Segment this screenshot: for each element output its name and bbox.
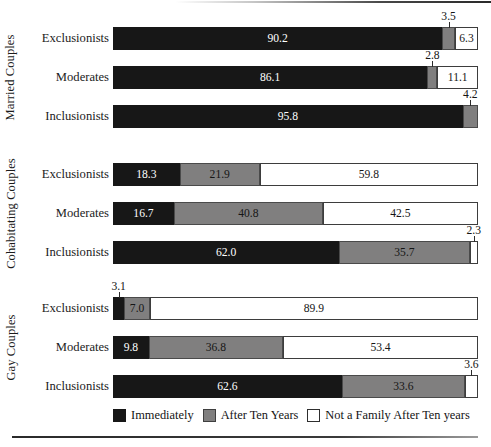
segment-value-label: 36.8 — [206, 342, 226, 354]
bar-row: 90.26.3 — [113, 27, 478, 50]
callout-leader-line — [474, 236, 475, 242]
category-label-inclusionists: Inclusionists — [9, 109, 109, 124]
bar-segment-gray: 7.0 — [124, 297, 150, 320]
category-label-moderates: Moderates — [9, 206, 109, 221]
segment-value-label: 59.8 — [359, 169, 379, 181]
bar-segment-gray: 21.9 — [180, 163, 260, 186]
bar-segment-gray: 40.8 — [174, 202, 323, 225]
legend-swatch-white — [307, 409, 320, 422]
bar-segment-black: 62.6 — [113, 375, 342, 398]
segment-value-label: 42.5 — [390, 208, 410, 220]
category-label-exclusionists: Exclusionists — [9, 167, 109, 182]
segment-value-label: 11.1 — [448, 72, 468, 84]
bar-segment-gray — [427, 66, 437, 89]
bar-row: 9.836.853.4 — [113, 336, 478, 359]
stacked-bar-chart-figure: Married CouplesExclusionists90.26.33.5Mo… — [0, 0, 491, 447]
segment-value-label: 40.8 — [238, 208, 258, 220]
legend-label: Immediately — [131, 408, 194, 423]
bar-segment-gray — [463, 105, 478, 128]
bar-segment-gray: 33.6 — [342, 375, 465, 398]
bar-segment-black: 62.0 — [113, 241, 339, 264]
segment-value-label: 16.7 — [133, 208, 153, 220]
bar-segment-white: 59.8 — [260, 163, 478, 186]
bar-segment-black — [113, 297, 124, 320]
bar-segment-white — [465, 375, 478, 398]
legend-item-not-a-family-after-ten-years: Not a Family After Ten years — [307, 408, 469, 423]
category-label-moderates: Moderates — [9, 340, 109, 355]
bar-segment-gray: 35.7 — [339, 241, 469, 264]
category-label-exclusionists: Exclusionists — [9, 31, 109, 46]
callout-leader-line — [449, 22, 450, 28]
legend-item-immediately: Immediately — [113, 408, 194, 423]
legend-label: Not a Family After Ten years — [325, 408, 469, 423]
segment-value-label: 53.4 — [370, 342, 390, 354]
chart-legend: ImmediatelyAfter Ten YearsNot a Family A… — [113, 405, 479, 425]
segment-value-label: 95.8 — [278, 111, 298, 123]
bar-row: 7.089.9 — [113, 297, 478, 320]
segment-value-label: 7.0 — [130, 303, 145, 315]
bar-segment-black: 16.7 — [113, 202, 174, 225]
bar-segment-white: 6.3 — [455, 27, 478, 50]
bar-segment-white: 11.1 — [437, 66, 478, 89]
callout-leader-line — [471, 370, 472, 376]
bar-segment-white — [470, 241, 478, 264]
bar-row: 62.035.7 — [113, 241, 478, 264]
callout-leader-line — [470, 100, 471, 106]
legend-swatch-black — [113, 409, 126, 422]
segment-value-label: 89.9 — [304, 303, 324, 315]
bar-segment-gray — [442, 27, 455, 50]
segment-value-label: 62.0 — [216, 247, 236, 259]
legend-swatch-gray — [203, 409, 216, 422]
segment-value-label: 18.3 — [136, 169, 156, 181]
segment-value-label: 9.8 — [124, 342, 139, 354]
segment-value-label: 33.6 — [393, 381, 413, 393]
category-label-moderates: Moderates — [9, 70, 109, 85]
callout-leader-line — [432, 61, 433, 67]
bar-row: 62.633.6 — [113, 375, 478, 398]
bar-row: 95.8 — [113, 105, 478, 128]
bar-segment-white: 89.9 — [150, 297, 478, 320]
page-edge-artifact — [175, 1, 491, 3]
segment-value-label: 35.7 — [394, 247, 414, 259]
bar-row: 18.321.959.8 — [113, 163, 478, 186]
segment-value-label: 21.9 — [210, 169, 230, 181]
segment-value-label: 6.3 — [459, 33, 474, 45]
segment-value-label: 86.1 — [260, 72, 280, 84]
category-label-exclusionists: Exclusionists — [9, 301, 109, 316]
category-label-inclusionists: Inclusionists — [9, 245, 109, 260]
bar-segment-white: 42.5 — [323, 202, 478, 225]
bar-row: 16.740.842.5 — [113, 202, 478, 225]
segment-value-label: 90.2 — [267, 33, 287, 45]
bar-segment-black: 86.1 — [113, 66, 427, 89]
legend-item-after-ten-years: After Ten Years — [203, 408, 299, 423]
segment-value-label: 62.6 — [217, 381, 237, 393]
bar-segment-white: 53.4 — [283, 336, 478, 359]
callout-leader-line — [119, 292, 120, 298]
category-label-inclusionists: Inclusionists — [9, 379, 109, 394]
legend-label: After Ten Years — [221, 408, 299, 423]
bar-segment-black: 95.8 — [113, 105, 463, 128]
bar-segment-black: 18.3 — [113, 163, 180, 186]
bottom-divider-rule — [12, 436, 478, 438]
bar-segment-black: 9.8 — [113, 336, 149, 359]
bar-segment-gray: 36.8 — [149, 336, 283, 359]
bar-row: 86.111.1 — [113, 66, 478, 89]
bar-segment-black: 90.2 — [113, 27, 442, 50]
